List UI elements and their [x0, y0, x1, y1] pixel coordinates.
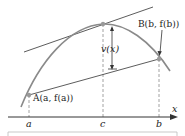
point-a [27, 93, 31, 97]
x-axis-label: x [172, 103, 178, 114]
point-b-label: B(b, f(b)) [138, 19, 179, 29]
tick-label-b: b [156, 118, 162, 129]
tangent-line [24, 7, 153, 52]
point-a-label: A(a, f(a)) [32, 93, 73, 103]
mvt-diagram: v(x) A(a, f(a)) B(b, f(b)) x a c b [0, 0, 185, 136]
tick-label-a: a [26, 118, 32, 129]
vx-arrow-head-up [110, 26, 114, 31]
point-b [157, 57, 161, 61]
secant-line [29, 59, 159, 95]
b-pointer-arrow [160, 30, 162, 53]
tick-label-c: c [100, 118, 106, 129]
x-axis-arrow-icon [170, 114, 178, 120]
point-c [101, 22, 105, 26]
vx-label: v(x) [101, 43, 119, 54]
